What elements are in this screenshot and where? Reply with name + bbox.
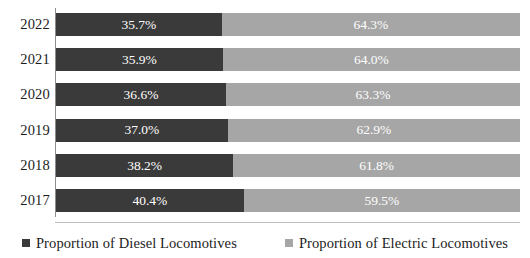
bar-value-label-diesel: 40.4% [132, 194, 167, 208]
bar-value-label-diesel: 35.7% [121, 18, 156, 32]
category-label-2020: 2020 [0, 83, 50, 106]
bar-segment-electric[interactable]: 62.9% [228, 119, 520, 142]
bar-row: 202135.9%64.0% [0, 48, 530, 71]
bar-row: 201937.0%62.9% [0, 119, 530, 142]
bar-value-label-electric: 62.9% [356, 123, 391, 137]
bar-segment-electric[interactable]: 64.3% [222, 13, 520, 36]
bar-value-label-electric: 63.3% [356, 88, 391, 102]
category-label-2017: 2017 [0, 189, 50, 212]
bar-segment-diesel[interactable]: 36.6% [56, 83, 226, 106]
bar-segment-electric[interactable]: 64.0% [223, 48, 520, 71]
category-label-2018: 2018 [0, 154, 50, 177]
bar-value-label-electric: 64.0% [354, 53, 389, 67]
square-marker-icon [285, 239, 293, 247]
bar-segment-electric[interactable]: 63.3% [226, 83, 520, 106]
bar-track: 37.0%62.9% [56, 119, 520, 142]
legend-divider [55, 222, 520, 223]
bar-row: 202036.6%63.3% [0, 83, 530, 106]
bar-value-label-diesel: 37.0% [124, 123, 159, 137]
bar-track: 35.7%64.3% [56, 13, 520, 36]
bar-value-label-electric: 59.5% [364, 194, 399, 208]
bar-segment-electric[interactable]: 59.5% [244, 189, 520, 212]
legend-item[interactable]: Proportion of Diesel Locomotives [22, 235, 237, 252]
bar-segment-electric[interactable]: 61.8% [233, 154, 520, 177]
legend-label: Proportion of Electric Locomotives [299, 235, 508, 252]
category-label-2019: 2019 [0, 119, 50, 142]
bar-value-label-diesel: 36.6% [124, 88, 159, 102]
category-label-2021: 2021 [0, 48, 50, 71]
bar-segment-diesel[interactable]: 35.9% [56, 48, 223, 71]
bar-segment-diesel[interactable]: 37.0% [56, 119, 228, 142]
bar-segment-diesel[interactable]: 40.4% [56, 189, 244, 212]
bar-track: 35.9%64.0% [56, 48, 520, 71]
bar-value-label-diesel: 35.9% [122, 53, 157, 67]
bar-segment-diesel[interactable]: 35.7% [56, 13, 222, 36]
bar-track: 36.6%63.3% [56, 83, 520, 106]
stacked-bar-chart: 202235.7%64.3%202135.9%64.0%202036.6%63.… [0, 0, 530, 258]
bar-track: 38.2%61.8% [56, 154, 520, 177]
bar-row: 202235.7%64.3% [0, 13, 530, 36]
chart-legend: Proportion of Diesel LocomotivesProporti… [0, 228, 530, 258]
bar-value-label-electric: 64.3% [353, 18, 388, 32]
bar-row: 201740.4%59.5% [0, 189, 530, 212]
bar-row: 201838.2%61.8% [0, 154, 530, 177]
bar-value-label-diesel: 38.2% [127, 159, 162, 173]
plot-area: 202235.7%64.3%202135.9%64.0%202036.6%63.… [0, 0, 530, 222]
bar-rows-container: 202235.7%64.3%202135.9%64.0%202036.6%63.… [0, 8, 530, 217]
square-marker-icon [22, 239, 30, 247]
bar-track: 40.4%59.5% [56, 189, 520, 212]
legend-item[interactable]: Proportion of Electric Locomotives [285, 235, 508, 252]
bar-segment-diesel[interactable]: 38.2% [56, 154, 233, 177]
legend-label: Proportion of Diesel Locomotives [36, 235, 237, 252]
bar-value-label-electric: 61.8% [359, 159, 394, 173]
category-label-2022: 2022 [0, 13, 50, 36]
